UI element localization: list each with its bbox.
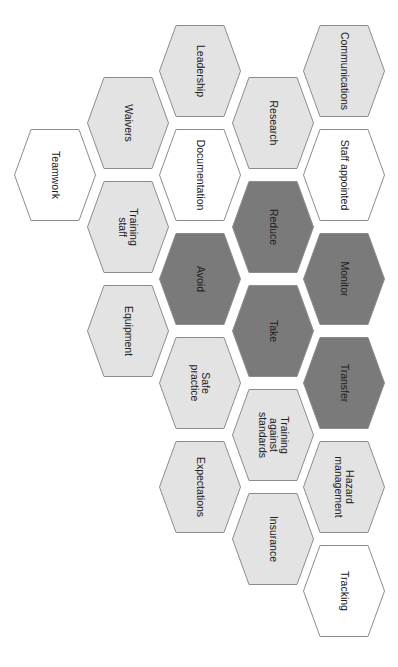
hexagon-label: Equipment bbox=[123, 287, 134, 375]
hexagon: Teamwork bbox=[14, 129, 96, 221]
hexagon: Training staff bbox=[87, 181, 169, 273]
hexagon: Reduce bbox=[232, 181, 314, 273]
hexagon: Communications bbox=[303, 25, 385, 117]
hexagon: Waivers bbox=[87, 77, 169, 169]
hexagon: Take bbox=[232, 285, 314, 377]
hexagon-label: Leadership bbox=[195, 27, 206, 115]
hexagon: Research bbox=[232, 77, 314, 169]
hexagon: Avoid bbox=[159, 233, 241, 325]
hexagon: Training against standards bbox=[232, 389, 314, 481]
hexagon-label: Safe practice bbox=[189, 339, 211, 427]
hexagon-diagram: Communications Staff appointed Monitor T… bbox=[0, 0, 398, 667]
hexagon-label: Avoid bbox=[195, 235, 206, 323]
hexagon: Equipment bbox=[87, 285, 169, 377]
hexagon: Expectations bbox=[159, 441, 241, 533]
hexagon-label: Teamwork bbox=[50, 131, 61, 219]
hexagon: Staff appointed bbox=[303, 129, 385, 221]
hexagon: Hazard management bbox=[303, 441, 385, 533]
hexagon-label: Expectations bbox=[195, 443, 206, 531]
hexagon-label: Training against standards bbox=[257, 391, 290, 479]
hexagon-label: Hazard management bbox=[333, 443, 355, 531]
hexagon-label: Research bbox=[268, 79, 279, 167]
hexagon: Documentation bbox=[159, 129, 241, 221]
hexagon-label: Waivers bbox=[123, 79, 134, 167]
hexagon-label: Tracking bbox=[339, 547, 350, 635]
hexagon-label: Reduce bbox=[268, 183, 279, 271]
hexagon: Safe practice bbox=[159, 337, 241, 429]
hexagon-label: Staff appointed bbox=[339, 131, 350, 219]
hexagon-label: Communications bbox=[339, 27, 350, 115]
hexagon-label: Take bbox=[268, 287, 279, 375]
hexagon: Leadership bbox=[159, 25, 241, 117]
hexagon-label: Training staff bbox=[117, 183, 139, 271]
hexagon: Monitor bbox=[303, 233, 385, 325]
hexagon-label: Monitor bbox=[339, 235, 350, 323]
hexagon: Tracking bbox=[303, 545, 385, 637]
hexagon: Insurance bbox=[232, 493, 314, 585]
hexagon-label: Documentation bbox=[195, 131, 206, 219]
hexagon: Transfer bbox=[303, 337, 385, 429]
hexagon-label: Transfer bbox=[339, 339, 350, 427]
hexagon-label: Insurance bbox=[268, 495, 279, 583]
